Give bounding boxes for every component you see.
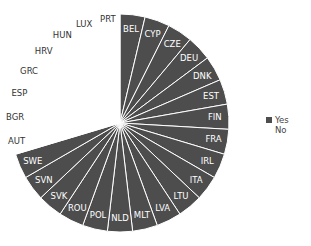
pie-label-hrv: HRV bbox=[35, 46, 53, 56]
pie-label-fin: FIN bbox=[208, 112, 222, 122]
legend-label-yes: Yes bbox=[275, 115, 289, 125]
legend-swatch-yes bbox=[266, 117, 272, 123]
pie-label-pol: POL bbox=[90, 210, 107, 220]
pie-label-svk: SVK bbox=[51, 191, 68, 201]
pie-chart: BELCYPCZEDEUDNKESTFINFRAIRLITALTULVAMLTN… bbox=[0, 0, 311, 246]
pie-label-aut: AUT bbox=[8, 136, 26, 146]
pie-label-ita: ITA bbox=[190, 175, 203, 185]
pie-label-nld: NLD bbox=[111, 213, 129, 223]
pie-label-esp: ESP bbox=[11, 88, 27, 98]
pie-label-svn: SVN bbox=[35, 175, 53, 185]
pie-label-bgr: BGR bbox=[6, 112, 24, 122]
pie-label-deu: DEU bbox=[180, 53, 198, 63]
pie-label-cyp: CYP bbox=[144, 29, 160, 39]
pie-label-fra: FRA bbox=[205, 134, 221, 144]
pie-label-grc: GRC bbox=[20, 66, 38, 76]
pie-label-lva: LVA bbox=[155, 203, 170, 213]
legend-item-yes: Yes bbox=[266, 115, 289, 125]
pie-label-ltu: LTU bbox=[174, 191, 189, 201]
pie-label-swe: SWE bbox=[23, 156, 42, 166]
pie-label-hun: HUN bbox=[53, 30, 72, 40]
pie-label-dnk: DNK bbox=[193, 71, 212, 81]
pie-label-rou: ROU bbox=[68, 203, 87, 213]
pie-label-bel: BEL bbox=[123, 24, 139, 34]
pie-label-est: EST bbox=[203, 91, 220, 101]
pie-label-cze: CZE bbox=[164, 39, 181, 49]
legend-label-no: No bbox=[275, 125, 287, 135]
pie-label-lux: LUX bbox=[76, 19, 93, 29]
legend: Yes No bbox=[266, 115, 289, 135]
pie-label-mlt: MLT bbox=[134, 210, 151, 220]
legend-swatch-no bbox=[266, 127, 272, 133]
pie-label-prt: PRT bbox=[100, 14, 116, 24]
pie-label-irl: IRL bbox=[201, 156, 214, 166]
legend-item-no: No bbox=[266, 125, 289, 135]
